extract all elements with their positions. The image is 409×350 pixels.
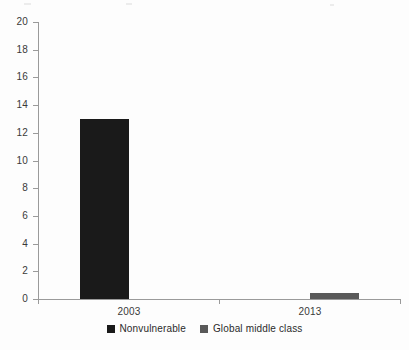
scan-artifact bbox=[24, 3, 31, 5]
y-axis-tick-mark bbox=[33, 271, 38, 272]
bar-2003-nonvulnerable bbox=[80, 119, 129, 299]
y-axis-tick-mark bbox=[33, 133, 38, 134]
y-axis-tick-mark bbox=[33, 50, 38, 51]
y-axis-tick-mark bbox=[33, 105, 38, 106]
y-axis-tick-mark bbox=[33, 22, 38, 23]
scan-artifact bbox=[330, 4, 334, 6]
bar-chart: 02468101214161820 20032013 Nonvulnerable… bbox=[0, 0, 409, 350]
scan-artifact bbox=[126, 3, 132, 5]
y-axis-tick-mark bbox=[33, 244, 38, 245]
legend-label: Nonvulnerable bbox=[120, 323, 186, 335]
chart-legend: NonvulnerableGlobal middle class bbox=[0, 323, 409, 335]
y-axis-tick-label: 4 bbox=[22, 239, 28, 249]
y-axis-tick-label: 12 bbox=[16, 128, 28, 138]
x-axis-tick-label: 2003 bbox=[89, 306, 169, 317]
y-axis-tick-label: 20 bbox=[16, 17, 28, 27]
x-axis-tick-mark bbox=[219, 299, 220, 304]
y-axis-line bbox=[38, 22, 39, 300]
legend-label: Global middle class bbox=[213, 323, 303, 335]
y-axis-tick-mark bbox=[33, 216, 38, 217]
y-axis-tick-label: 8 bbox=[22, 183, 28, 193]
y-axis-tick-label: 2 bbox=[22, 266, 28, 276]
legend-swatch-icon bbox=[200, 325, 208, 333]
legend-entry: Nonvulnerable bbox=[107, 323, 186, 335]
y-axis-tick-label: 18 bbox=[16, 45, 28, 55]
y-axis-tick-label: 16 bbox=[16, 72, 28, 82]
x-axis-tick-mark bbox=[400, 299, 401, 304]
legend-swatch-icon bbox=[107, 325, 115, 333]
y-axis-tick-label: 14 bbox=[16, 100, 28, 110]
y-axis-tick-label: 10 bbox=[16, 156, 28, 166]
y-axis-tick-mark bbox=[33, 77, 38, 78]
x-axis-tick-mark bbox=[38, 299, 39, 304]
y-axis-tick-mark bbox=[33, 188, 38, 189]
y-axis-tick-mark bbox=[33, 161, 38, 162]
y-axis-tick-label: 0 bbox=[22, 294, 28, 304]
x-axis-tick-label: 2013 bbox=[270, 306, 350, 317]
bar-2013-global-middle-class bbox=[310, 293, 359, 299]
y-axis-tick-label: 6 bbox=[22, 211, 28, 221]
legend-entry: Global middle class bbox=[200, 323, 303, 335]
